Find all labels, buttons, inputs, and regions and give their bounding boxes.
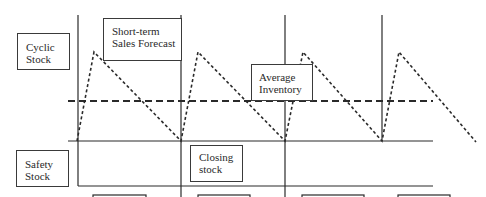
bottom-box-4 (398, 195, 450, 197)
closing-stock-label: Closing stock (190, 145, 243, 182)
cyclic-stock-line-1: Cyclic (26, 41, 69, 53)
short-term-forecast-line-2: Sales Forecast (112, 37, 181, 49)
inventory-sawtooth-diagram (0, 0, 486, 197)
short-term-forecast-label: Short-term Sales Forecast (103, 18, 182, 61)
average-inventory-label: Average Inventory (251, 64, 313, 101)
average-inventory-line-1: Average (259, 71, 312, 83)
safety-stock-line-2: Stock (25, 170, 68, 182)
bottom-box-2 (198, 195, 250, 197)
safety-stock-label: Safety Stock (16, 150, 69, 187)
bottom-box-3 (302, 195, 364, 197)
closing-stock-line-2: stock (199, 163, 242, 175)
bottom-box-1 (93, 195, 146, 197)
cyclic-stock-line-2: Stock (26, 53, 69, 65)
closing-stock-line-1: Closing (199, 151, 242, 163)
short-term-forecast-line-1: Short-term (112, 25, 181, 37)
cyclic-stock-label: Cyclic Stock (17, 33, 70, 70)
safety-stock-line-1: Safety (25, 158, 68, 170)
average-inventory-line-2: Inventory (259, 83, 312, 95)
